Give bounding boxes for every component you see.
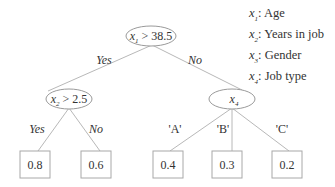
legend-label: : Age [258, 6, 285, 20]
leaf-value: 0.6 [89, 158, 104, 172]
root-cond: > 38.5 [139, 29, 173, 43]
legend-item-job-type: x4: Job type [249, 69, 324, 90]
right-c-label: 'C' [276, 122, 288, 136]
left-cond: > 2.5 [60, 92, 88, 106]
leaf-right-c: 0.2 [272, 151, 302, 178]
root-yes-label: Yes [96, 53, 112, 67]
right-sub: 4 [235, 100, 239, 108]
leaf-value: 0.4 [161, 158, 176, 172]
leaf-value: 0.2 [280, 158, 295, 172]
root-node: x1 > 38.5 [126, 26, 176, 46]
legend-label: : Gender [258, 48, 301, 62]
leaf-value: 0.8 [28, 158, 43, 172]
leaf-right-a: 0.4 [153, 151, 183, 178]
legend-label: : Years in job [258, 27, 324, 41]
left-yes-label: Yes [29, 122, 45, 136]
right-a-label: 'A' [169, 122, 182, 136]
left-node: x2 > 2.5 [46, 89, 92, 109]
leaf-left-yes: 0.8 [20, 151, 50, 178]
edge-root-yes [48, 45, 152, 91]
root-no-label: No [187, 53, 202, 67]
left-no-label: No [88, 122, 103, 136]
leaf-value: 0.3 [220, 158, 235, 172]
right-b-label: 'B' [217, 122, 229, 136]
right-node: x4 [209, 89, 255, 109]
leaf-right-b: 0.3 [212, 151, 242, 178]
legend-item-years-in-job: x2: Years in job [249, 27, 324, 48]
edge-root-no [152, 45, 242, 90]
legend-item-gender: x3: Gender [249, 48, 324, 69]
svg-text:x2 > 2.5: x2 > 2.5 [50, 92, 88, 108]
legend-label: : Job type [258, 69, 307, 83]
leaf-left-no: 0.6 [81, 151, 111, 178]
variable-legend: x1: Age x2: Years in job x3: Gender x4: … [249, 6, 324, 90]
legend-item-age: x1: Age [249, 6, 324, 27]
